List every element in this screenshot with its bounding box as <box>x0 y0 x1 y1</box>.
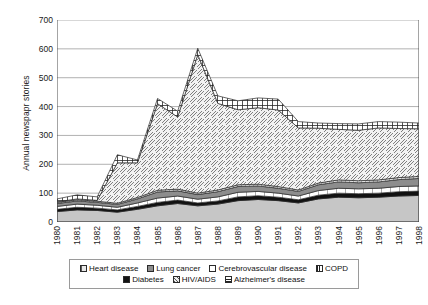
y-tick-300: 300 <box>23 130 53 140</box>
x-tick-1993: 1993 <box>313 226 323 245</box>
legend-label-cerebrovascular-disease: Cerebrovascular disease <box>218 263 307 274</box>
legend-item-cerebrovascular-disease[interactable]: Cerebrovascular disease <box>209 263 307 274</box>
x-tick-1986: 1986 <box>173 226 183 245</box>
x-tick-1980: 1980 <box>52 226 62 245</box>
legend-swatch-cerebrovascular-disease <box>209 265 216 272</box>
legend-item-alzheimer-s-disease[interactable]: Alzheimer's disease <box>225 274 305 285</box>
legend-label-heart-disease: Heart disease <box>89 263 138 274</box>
x-tick-1989: 1989 <box>233 226 243 245</box>
legend-item-heart-disease[interactable]: Heart disease <box>80 263 138 274</box>
y-tick-0: 0 <box>23 217 53 227</box>
legend-swatch-alzheimer-s-disease <box>225 276 232 283</box>
y-axis-tick-labels: 0100200300400500600700 <box>20 20 53 222</box>
y-tick-400: 400 <box>23 102 53 112</box>
x-tick-1994: 1994 <box>334 226 344 245</box>
plot-area <box>57 20 419 222</box>
legend-label-diabetes: Diabetes <box>132 274 164 285</box>
y-tick-700: 700 <box>23 15 53 25</box>
chart-legend: Heart diseaseLung cancerCerebrovascular … <box>69 259 359 289</box>
legend-row-1: Heart diseaseLung cancerCerebrovascular … <box>74 263 354 274</box>
x-tick-1985: 1985 <box>153 226 163 245</box>
x-tick-1995: 1995 <box>354 226 364 245</box>
x-tick-1992: 1992 <box>293 226 303 245</box>
legend-swatch-diabetes <box>123 276 130 283</box>
legend-swatch-copd <box>316 265 323 272</box>
legend-label-hiv-aids: HIV/AIDS <box>182 274 216 285</box>
x-tick-1997: 1997 <box>394 226 404 245</box>
legend-item-copd[interactable]: COPD <box>316 263 348 274</box>
y-tick-100: 100 <box>23 188 53 198</box>
x-tick-1983: 1983 <box>112 226 122 245</box>
x-tick-1987: 1987 <box>193 226 203 245</box>
x-axis-tick-labels: 1980198119821983198419851986198719881989… <box>57 226 419 260</box>
chart-figure: Annual newspapr stories 0100200300400500… <box>0 0 428 305</box>
legend-row-2: DiabetesHIV/AIDSAlzheimer's disease <box>74 274 354 285</box>
legend-item-lung-cancer[interactable]: Lung cancer <box>147 263 200 274</box>
x-tick-1991: 1991 <box>273 226 283 245</box>
legend-swatch-lung-cancer <box>147 265 154 272</box>
y-tick-600: 600 <box>23 44 53 54</box>
legend-label-alzheimer-s-disease: Alzheimer's disease <box>234 274 305 285</box>
x-tick-1988: 1988 <box>213 226 223 245</box>
x-tick-1998: 1998 <box>414 226 424 245</box>
legend-item-hiv-aids[interactable]: HIV/AIDS <box>173 274 216 285</box>
stacked-area-svg <box>57 20 419 222</box>
legend-swatch-hiv-aids <box>173 276 180 283</box>
x-tick-1982: 1982 <box>92 226 102 245</box>
y-tick-200: 200 <box>23 159 53 169</box>
x-tick-1984: 1984 <box>132 226 142 245</box>
x-tick-1990: 1990 <box>253 226 263 245</box>
legend-swatch-heart-disease <box>80 265 87 272</box>
y-tick-500: 500 <box>23 73 53 83</box>
legend-label-copd: COPD <box>325 263 348 274</box>
x-tick-1996: 1996 <box>374 226 384 245</box>
legend-item-diabetes[interactable]: Diabetes <box>123 274 164 285</box>
x-tick-1981: 1981 <box>72 226 82 245</box>
legend-label-lung-cancer: Lung cancer <box>156 263 200 274</box>
